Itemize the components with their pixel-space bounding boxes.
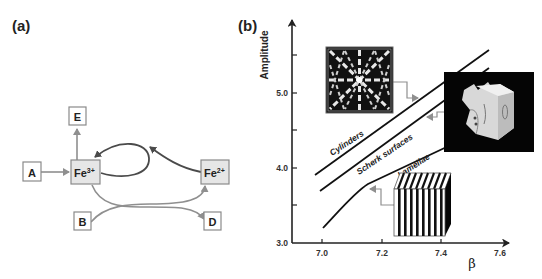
node-b: B [74, 212, 91, 230]
connector-scherk [427, 112, 446, 117]
node-d-label: D [209, 216, 217, 228]
connector-cylinders [393, 82, 418, 98]
x-tick-7-6: 7.6 [494, 248, 506, 258]
fe3-superscript: 3+ [87, 167, 95, 174]
y-axis-title: Amplitude [259, 30, 270, 79]
node-b-label: B [79, 216, 87, 228]
cylinders-structure-image [326, 47, 393, 113]
arrow-b-to-fe2 [91, 186, 205, 222]
node-a: A [23, 162, 41, 181]
y-tick-3-0: 3.0 [276, 238, 288, 248]
arrow-fe3-self-loop [95, 144, 149, 176]
lamellae-structure-image [394, 173, 451, 236]
scherk-structure-image [444, 72, 534, 152]
node-e-label: E [74, 111, 81, 123]
node-d: D [204, 212, 221, 230]
fe2-superscript: 2+ [217, 167, 225, 174]
node-e: E [69, 107, 86, 125]
fe2-base: Fe [204, 167, 217, 179]
arrow-fe2-to-loop [150, 147, 201, 172]
y-tick-4-0: 4.0 [276, 163, 288, 173]
phase-diagram: 3.0 4.0 5.0 7.0 7.2 7.4 7.6 Amplitude β … [259, 20, 534, 271]
figure-canvas: A E Fe3+ Fe2+ B D [0, 0, 542, 279]
fe3-base: Fe [74, 167, 87, 179]
x-tick-7-0: 7.0 [316, 248, 328, 258]
node-a-label: A [28, 167, 36, 179]
arrow-fe3-to-d [92, 185, 204, 219]
reaction-diagram: A E Fe3+ Fe2+ B D [23, 107, 229, 230]
x-tick-7-2: 7.2 [376, 248, 388, 258]
node-fe3: Fe3+ [71, 160, 100, 184]
x-axis-title: β [468, 256, 476, 271]
node-fe2: Fe2+ [201, 160, 229, 184]
connector-lamellae [370, 189, 395, 205]
y-tick-5-0: 5.0 [276, 88, 288, 98]
x-tick-7-4: 7.4 [435, 248, 447, 258]
